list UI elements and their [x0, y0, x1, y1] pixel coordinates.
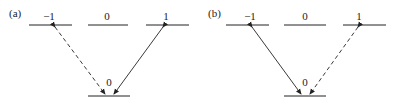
panel-a-solid-transition-arrow — [114, 27, 163, 94]
panel-a-level-minus1-label: −1 — [43, 10, 55, 22]
panel-b: (b) −1 0 1 0 — [208, 7, 386, 96]
panel-b-solid-transition-arrow — [252, 27, 301, 94]
panel-b-level-0-label: 0 — [302, 10, 308, 22]
panel-a: (a) −1 0 1 0 — [9, 7, 189, 96]
panel-a-label: (a) — [9, 7, 22, 20]
panel-b-level-1-label: 1 — [356, 10, 362, 22]
energy-level-diagram: (a) −1 0 1 0 (b) −1 0 1 0 — [0, 0, 399, 101]
panel-b-ground-level-label: 0 — [302, 76, 308, 88]
panel-a-level-1-label: 1 — [163, 10, 169, 22]
panel-b-label: (b) — [208, 7, 221, 20]
panel-b-dashed-transition-arrow — [310, 27, 358, 94]
panel-b-level-minus1-label: −1 — [244, 10, 256, 22]
panel-a-dashed-transition-arrow — [55, 27, 105, 94]
panel-a-ground-level-label: 0 — [106, 76, 112, 88]
panel-a-level-0-label: 0 — [104, 10, 110, 22]
